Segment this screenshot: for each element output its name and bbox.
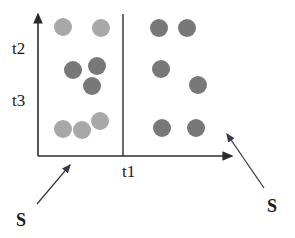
data-point <box>153 119 171 137</box>
annotation-s-left-arrow <box>37 165 70 204</box>
y-axis-tick-label-t3: t3 <box>12 92 25 109</box>
data-point <box>150 19 168 37</box>
y-axis-tick-label-t2: t2 <box>12 40 25 57</box>
x-axis-label-t1: t1 <box>122 163 135 180</box>
data-point <box>83 77 101 95</box>
data-point <box>189 76 207 94</box>
annotation-arrows-group <box>37 134 264 204</box>
data-point <box>187 119 205 137</box>
data-point <box>88 57 106 75</box>
data-point <box>54 18 72 36</box>
data-point <box>152 60 170 78</box>
annotation-s-right-arrow <box>227 134 264 188</box>
data-points-group <box>54 18 207 139</box>
data-point <box>64 61 82 79</box>
data-point <box>73 121 91 139</box>
annotation-label-s-left: S <box>16 211 26 229</box>
data-point <box>178 19 196 37</box>
data-point <box>92 19 110 37</box>
data-point <box>54 120 72 138</box>
annotation-label-s-right: S <box>267 197 277 215</box>
scatter-diagram-figure: t2 t3 t1 S S <box>0 0 295 238</box>
plot-canvas <box>0 0 295 238</box>
data-point <box>91 112 109 130</box>
